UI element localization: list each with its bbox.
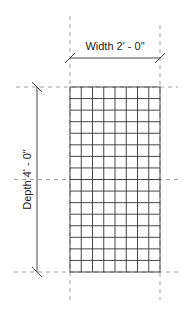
panel-grid — [70, 87, 160, 272]
diagram-canvas: Width 2' - 0" Depth 4' - 0" — [0, 0, 184, 310]
reference-lines — [14, 16, 178, 300]
width-dimension — [65, 53, 165, 63]
depth-label: Depth 4' - 0" — [21, 149, 33, 210]
width-label: Width 2' - 0" — [85, 40, 144, 52]
